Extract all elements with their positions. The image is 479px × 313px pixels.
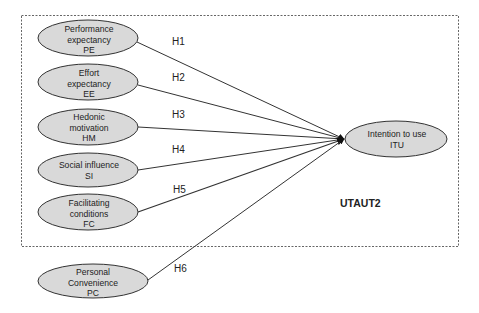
construct-fc-line2: conditions (70, 209, 109, 219)
hypothesis-label-h5: H5 (173, 184, 186, 195)
construct-fc-line3: FC (83, 219, 94, 229)
construct-ee-line2: expectancy (67, 79, 111, 89)
hypothesis-label-h4: H4 (172, 144, 185, 155)
outcome-itu: Intention to use ITU (345, 121, 447, 157)
construct-si: Social influence SI (38, 153, 138, 187)
path-si-itu (138, 139, 344, 170)
hypothesis-label-h1: H1 (172, 36, 185, 47)
construct-pc-line2: Convenience (68, 278, 118, 288)
construct-ee: Effort expectancy EE (38, 64, 138, 100)
path-fc-itu (138, 139, 344, 212)
outcome-itu-line1: Intention to use (368, 129, 427, 139)
construct-hm-line3: HM (82, 133, 95, 143)
construct-fc: Facilitating conditions FC (38, 194, 138, 230)
construct-fc-line1: Facilitating (68, 198, 109, 208)
path-pe-itu (137, 42, 344, 139)
construct-pc: Personal Convenience PC (38, 264, 148, 298)
construct-ee-line3: EE (83, 89, 95, 99)
hypothesis-label-h3: H3 (172, 109, 185, 120)
hypothesis-label-h6: H6 (174, 263, 187, 274)
construct-hm-line1: Hedonic (73, 112, 105, 122)
construct-hm: Hedonic motivation HM (38, 109, 138, 145)
construct-pe: Performance expectancy PE (38, 20, 138, 56)
path-pc-itu (148, 139, 344, 280)
construct-pe-line2: expectancy (67, 35, 111, 45)
path-ee-itu (138, 85, 344, 139)
path-hm-itu (138, 127, 344, 139)
hypothesis-labels: H1 H2 H3 H4 H5 H6 (172, 36, 187, 274)
construct-si-line2: SI (85, 171, 93, 181)
construct-si-line1: Social influence (59, 160, 119, 170)
construct-pc-line1: Personal (76, 267, 110, 277)
construct-pe-line1: Performance (64, 24, 113, 34)
hypothesis-label-h2: H2 (172, 72, 185, 83)
construct-hm-line2: motivation (69, 123, 108, 133)
construct-pc-line3: PC (87, 288, 99, 298)
outcome-itu-line2: ITU (390, 140, 404, 150)
model-label: UTAUT2 (340, 197, 381, 209)
construct-ee-line1: Effort (79, 68, 100, 78)
research-model-diagram: H1 H2 H3 H4 H5 H6 Performance expectancy… (0, 0, 479, 313)
construct-pe-line3: PE (83, 45, 95, 55)
hypothesis-paths (137, 42, 344, 280)
